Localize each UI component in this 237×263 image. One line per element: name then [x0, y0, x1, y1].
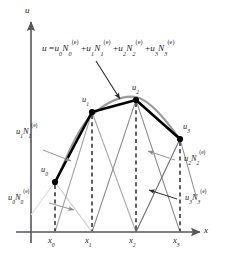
y-axis-label: u	[25, 6, 30, 15]
interpolant-polyline	[52, 97, 183, 185]
annotation-u1N1: u1N1(e)	[16, 128, 37, 136]
node-label-u3: u3	[183, 123, 190, 131]
shape-function-equation: u =u0N0(e) +u1N1(e) +u2N2(e) +u3N3(e)	[42, 44, 175, 53]
equation-term-2: u2N2(e)	[118, 43, 142, 53]
node-point-u2	[133, 97, 139, 103]
node-point-u0	[52, 179, 58, 185]
basis-function-N1	[55, 112, 136, 232]
tick-label-x2: x2	[129, 236, 136, 245]
figure-root: u x u =u0N0(e) +u1N1(e) +u2N2(e) +u3N3(e…	[0, 0, 237, 263]
leader-equation	[96, 61, 120, 99]
tick-label-x0: x0	[48, 236, 55, 245]
equation-lhs: u	[42, 43, 47, 53]
tick-label-x1: x1	[85, 236, 92, 245]
x-axis-label: x	[204, 226, 208, 235]
node-point-u1	[89, 109, 95, 115]
node-point-u3	[177, 136, 183, 142]
node-label-u0: u0	[41, 166, 48, 174]
equation-term-0: u0N0(e)	[54, 43, 78, 53]
leader-u0N0	[49, 203, 74, 210]
equation-term-1: u1N1(e)	[86, 43, 110, 53]
node-label-u2: u2	[132, 84, 139, 92]
annotation-u3N3: u3N3(e)	[185, 194, 206, 202]
equation-term-3: u3N3(e)	[150, 43, 174, 53]
annotation-u2N2: u2N2(e)	[184, 155, 205, 163]
basis-function-N3	[136, 139, 196, 232]
tick-label-x3: x3	[173, 236, 180, 245]
node-label-u1: u1	[82, 96, 89, 104]
annotation-u0N0: u0N0(e)	[8, 194, 29, 202]
leader-u2N2	[148, 151, 175, 160]
